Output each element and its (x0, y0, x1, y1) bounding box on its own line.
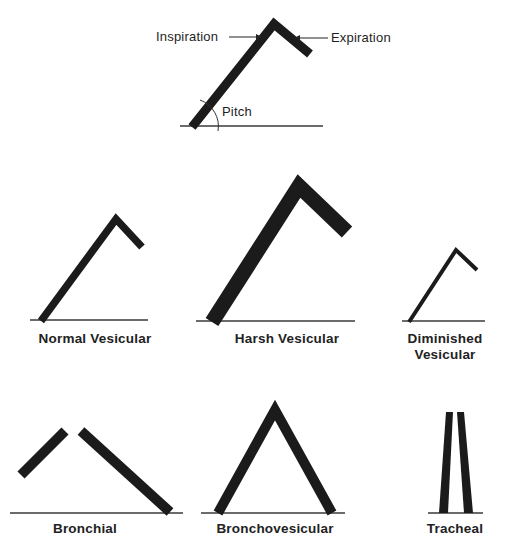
inspiration-stroke (21, 431, 65, 475)
sound-stroke (409, 250, 477, 322)
expiration-label: Expiration (331, 30, 391, 45)
caption-diminished-vesicular-line1: Diminished (397, 331, 493, 346)
normal-vesicular-diagram (30, 219, 148, 321)
expiration-bar (457, 412, 473, 513)
caption-bronchial: Bronchial (20, 521, 150, 536)
tracheal-diagram (428, 412, 483, 513)
inspiration-bar (439, 412, 453, 513)
diminished-vesicular-diagram (402, 250, 485, 322)
caption-diminished-vesicular-line2: Vesicular (397, 347, 493, 362)
bronchovesicular-diagram (201, 410, 345, 513)
inspiration-label: Inspiration (156, 29, 218, 44)
breath-sounds-diagram (0, 0, 508, 539)
bronchial-diagram (10, 431, 183, 513)
sound-stroke (41, 219, 142, 321)
caption-bronchovesicular: Bronchovesicular (200, 521, 350, 536)
harsh-vesicular-diagram (196, 186, 355, 322)
pitch-label: Pitch (222, 104, 252, 119)
caption-tracheal: Tracheal (410, 521, 500, 536)
caption-harsh-vesicular: Harsh Vesicular (212, 331, 362, 346)
expiration-stroke (81, 431, 170, 512)
sound-stroke (212, 186, 347, 322)
caption-normal-vesicular: Normal Vesicular (20, 331, 170, 346)
sound-stroke (218, 410, 332, 513)
